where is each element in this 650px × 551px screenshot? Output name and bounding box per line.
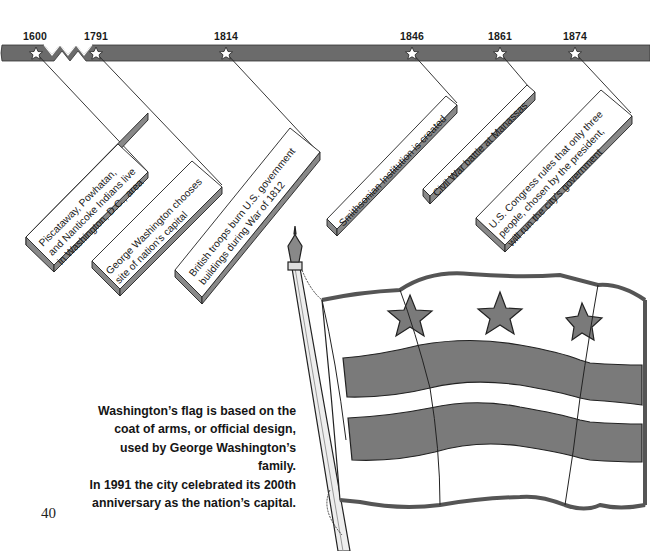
flag-illustration	[288, 226, 645, 551]
caption-line: Washington’s flag is based on the	[84, 402, 296, 420]
page-number: 40	[41, 505, 56, 522]
caption-line: anniversary as the nation’s capital.	[84, 494, 296, 512]
caption-line: In 1991 the city celebrated its 200th	[84, 476, 296, 494]
caption-line: coat of arms, or official design,	[84, 420, 296, 438]
flag-caption: Washington’s flag is based on the coat o…	[84, 402, 296, 512]
caption-line: used by George Washington’s family.	[84, 439, 296, 476]
